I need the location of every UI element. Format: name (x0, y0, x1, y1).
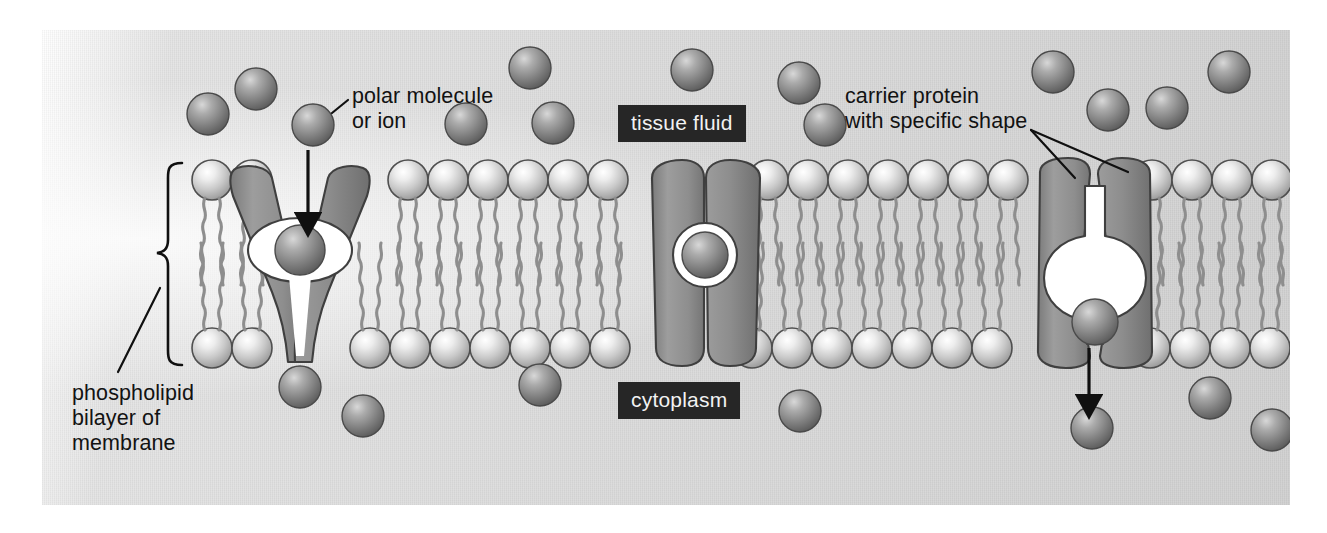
molecule-in-left-channel (275, 225, 325, 275)
label-phospholipid-bilayer: phospholipid bilayer of membrane (72, 381, 194, 456)
entering-molecule (292, 104, 334, 146)
label-carrier-protein: carrier protein with specific shape (845, 84, 1027, 134)
molecule-enclosed-centre (682, 232, 728, 278)
polar-molecule-leader (332, 100, 348, 113)
molecule-leaving-right-channel (1072, 299, 1118, 345)
label-polar-molecule: polar molecule or ion (352, 84, 493, 134)
membrane-illustration (0, 0, 1327, 533)
molecule-released-cytoplasm (1071, 407, 1113, 449)
bilayer-leader (118, 288, 160, 372)
label-cytoplasm: cytoplasm (618, 382, 740, 419)
label-tissue-fluid: tissue fluid (618, 105, 746, 142)
figure-canvas: polar molecule or ion carrier protein wi… (0, 0, 1327, 533)
bilayer-brace (157, 163, 182, 365)
